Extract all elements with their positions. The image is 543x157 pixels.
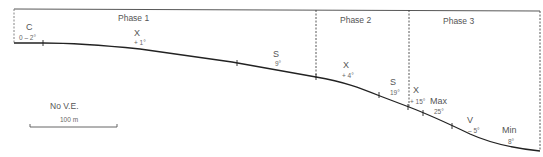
top-frame-line [14, 9, 540, 11]
segment-code-v: V [467, 116, 473, 125]
segment-angle-s2: 19° [390, 90, 400, 97]
segment-code-s1: S [273, 50, 279, 59]
segment-angle-x1: + 1° [134, 40, 146, 47]
segment-code-c: C [26, 23, 33, 32]
segment-angle-x3: + 15° [410, 99, 425, 106]
segment-angle-v: – 5° [468, 128, 480, 135]
scale-bar-label: 100 m [60, 117, 78, 124]
segment-angle-x2: + 4° [342, 73, 354, 80]
segment-code-x3: X [413, 86, 419, 95]
segment-code-x2: X [343, 61, 349, 70]
segment-code-s2: S [390, 78, 396, 87]
phase-1-label: Phase 1 [118, 14, 149, 23]
segment-code-max: Max [430, 97, 447, 106]
segment-code-x1: X [134, 29, 140, 38]
vertical-exaggeration-note: No V.E. [50, 102, 79, 111]
segment-angle-c: 0 – 2° [19, 35, 36, 42]
segment-angle-max: 25° [434, 109, 444, 116]
segment-angle-min: 8° [508, 139, 514, 146]
scale-bar [30, 124, 117, 127]
segment-angle-s1: 9° [275, 61, 281, 68]
segment-code-min: Min [502, 126, 517, 135]
phase-3-label: Phase 3 [443, 17, 474, 26]
phase-2-label: Phase 2 [340, 16, 371, 25]
